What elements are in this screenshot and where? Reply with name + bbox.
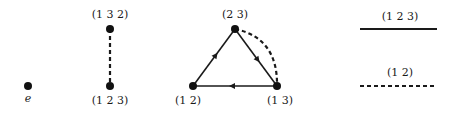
legend-label-dashed: (1 2) — [387, 66, 413, 79]
legend-label-solid: (1 2 3) — [382, 10, 419, 23]
node-label-e: e — [25, 92, 32, 105]
node-12 — [189, 82, 197, 90]
node-label-132: (1 3 2) — [92, 8, 129, 21]
node-label-123: (1 2 3) — [92, 94, 129, 107]
node-label-12: (1 2) — [175, 94, 201, 107]
arrowhead-13-12 — [229, 83, 235, 89]
cayley-graph-diagram: e (1 3 2) (1 2 3) (2 3) (1 2) (1 3) (1 2… — [0, 0, 459, 117]
node-e — [24, 82, 32, 90]
node-132 — [106, 25, 114, 33]
node-label-23: (2 3) — [222, 8, 248, 21]
node-123 — [106, 82, 114, 90]
node-label-13: (1 3) — [267, 94, 293, 107]
node-23 — [231, 25, 239, 33]
node-13 — [273, 82, 281, 90]
